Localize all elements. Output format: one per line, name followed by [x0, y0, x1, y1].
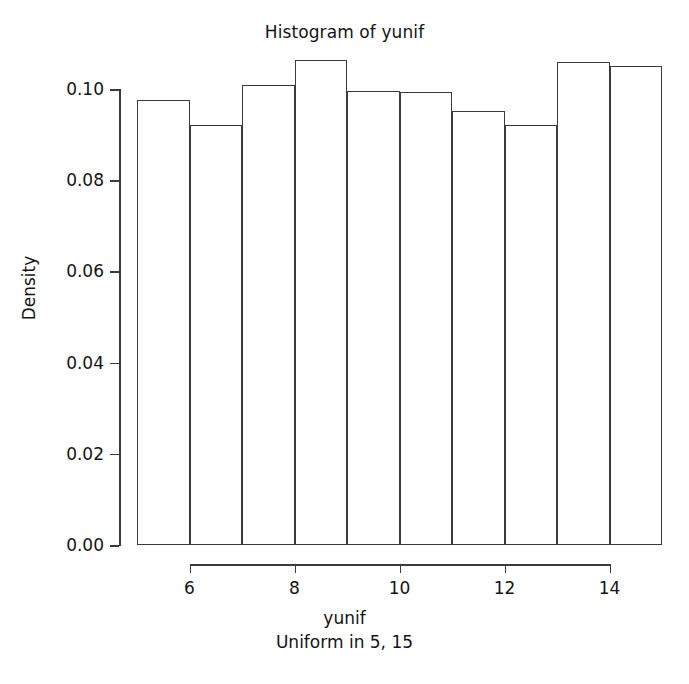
x-axis-tick	[610, 564, 612, 573]
x-axis-tick-label: 14	[580, 578, 640, 598]
y-axis-tick-label: 0.06	[40, 261, 104, 281]
x-axis-tick-label: 8	[265, 578, 325, 598]
histogram-bar	[452, 111, 505, 545]
histogram-figure: Histogram of yunif Density 0.000.020.040…	[0, 0, 689, 684]
histogram-bar	[137, 100, 190, 545]
y-axis-tick	[110, 363, 119, 365]
x-axis-tick	[295, 564, 297, 573]
x-axis-tick	[505, 564, 507, 573]
plot-area	[137, 55, 662, 545]
y-axis-tick-label: 0.08	[40, 170, 104, 190]
y-axis-tick	[110, 180, 119, 182]
histogram-bar	[295, 60, 348, 545]
histogram-bar	[400, 92, 453, 545]
y-axis-tick	[110, 271, 119, 273]
histogram-bar	[242, 85, 295, 545]
histogram-bar	[190, 125, 243, 545]
histogram-bar	[505, 125, 558, 545]
y-axis-tick-label: 0.10	[40, 79, 104, 99]
x-axis-label: yunif	[0, 608, 689, 628]
y-axis-tick-label: 0.04	[40, 353, 104, 373]
x-axis-tick-label: 10	[370, 578, 430, 598]
y-axis-tick-label: 0.00	[40, 535, 104, 555]
y-axis-tick	[110, 89, 119, 91]
histogram-bar	[557, 62, 610, 545]
y-axis-tick	[110, 545, 119, 547]
y-axis-line	[119, 89, 121, 546]
y-axis-label: Density	[19, 228, 39, 348]
x-axis-tick-label: 12	[475, 578, 535, 598]
histogram-bar	[347, 91, 400, 545]
chart-subtitle: Uniform in 5, 15	[0, 632, 689, 652]
y-axis-tick	[110, 454, 119, 456]
chart-title: Histogram of yunif	[0, 22, 689, 42]
x-axis-tick-label: 6	[160, 578, 220, 598]
histogram-bar	[610, 66, 663, 545]
x-axis-tick	[190, 564, 192, 573]
x-axis-tick	[400, 564, 402, 573]
y-axis-tick-label: 0.02	[40, 444, 104, 464]
